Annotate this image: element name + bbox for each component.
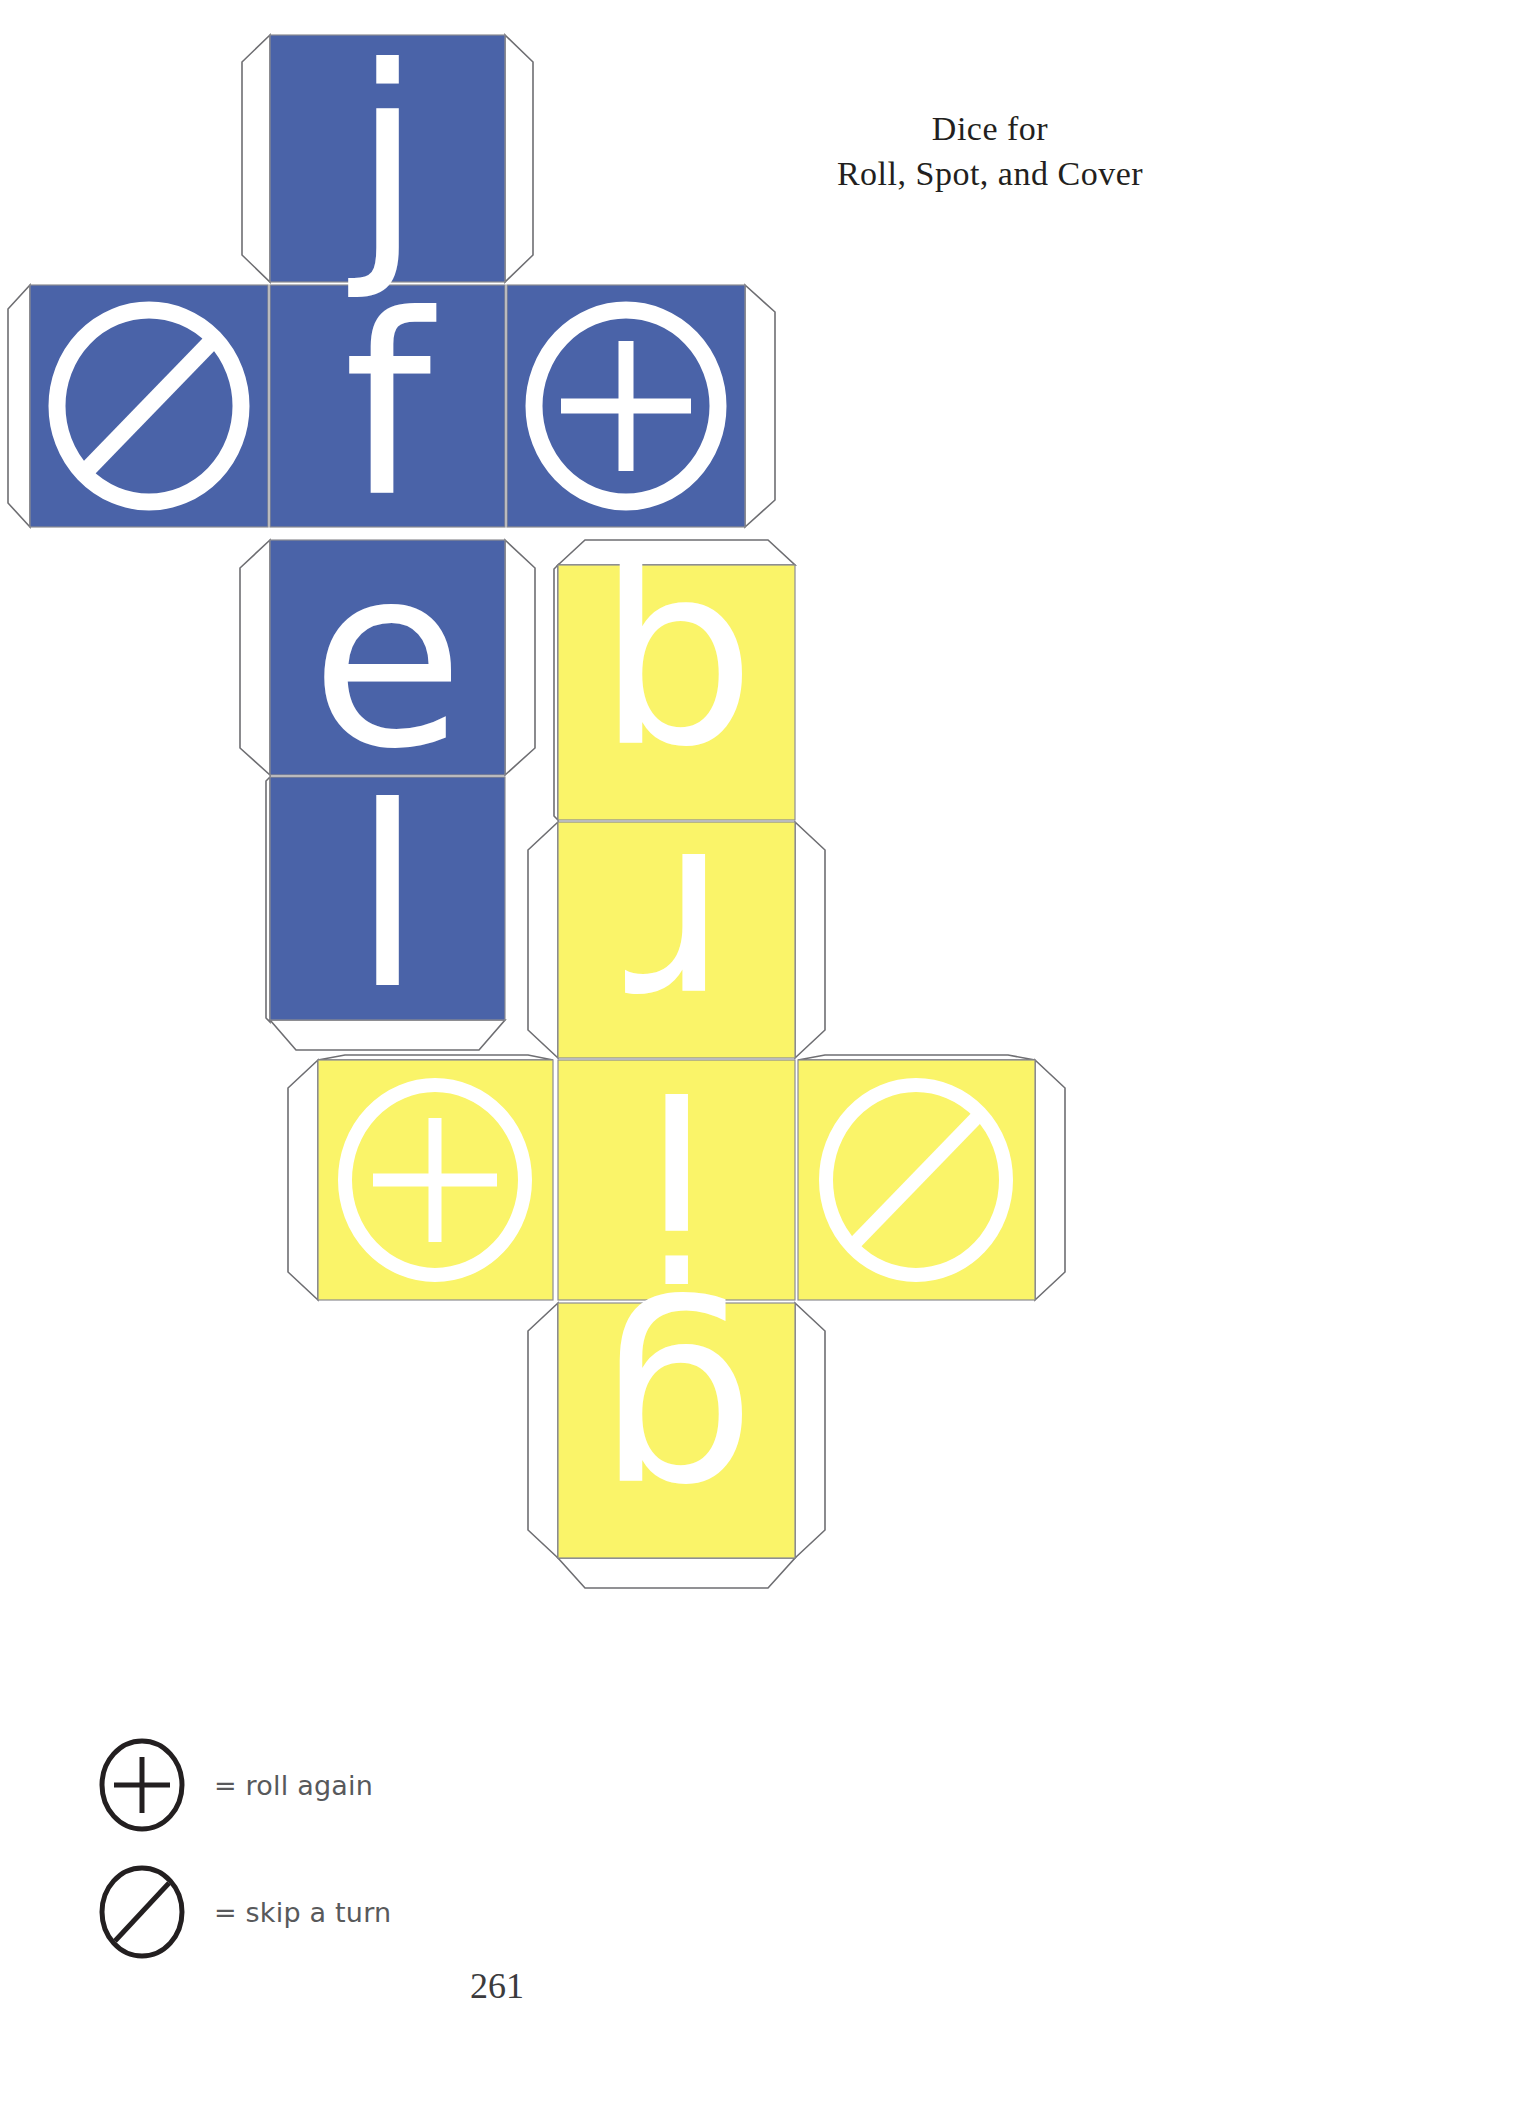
die-glyph-letter: e [311,535,465,780]
yellow-tab-g-left [528,1303,558,1558]
blue-tab-e-right [505,540,535,775]
blue-face-plus-content [507,285,745,527]
yellow-tab-plus-left [288,1060,318,1300]
legend-item-roll-again: = roll again [96,1735,373,1835]
yellow-face-plus-content [318,1060,553,1300]
yellow-face-q-content: q [558,565,795,820]
blue-face-f-content: f [270,285,505,527]
roll-again-icon [96,1735,188,1835]
blue-tab-skip-left [8,285,30,527]
die-glyph-letter: f [343,284,431,529]
blue-face-j-content: j [270,35,505,282]
die-glyph-letter: j [353,36,422,281]
yellow-tab-r-left [528,822,558,1058]
yellow-face-g-content: g [558,1303,795,1558]
blue-tab-e-left [240,540,270,775]
skip-a-turn-icon [57,310,241,502]
die-glyph-letter: i [642,1058,711,1303]
yellow-face-r-content: r [558,822,795,1058]
blue-tab-j-right [505,35,533,282]
blue-face-l-content: l [270,777,505,1020]
yellow-tab-r-right [795,822,825,1058]
blue-tab-j-left [242,35,270,282]
blue-face-skip-content [30,285,268,527]
roll-again-icon [534,310,718,502]
yellow-tab-skip-right [1035,1060,1065,1300]
skip-a-turn-icon [826,1085,1006,1275]
legend-label-skip-a-turn: = skip a turn [214,1897,391,1928]
die-glyph-letter: g [597,1308,756,1553]
skip-a-turn-icon [96,1862,188,1962]
yellow-tab-g-right [795,1303,825,1558]
blue-tab-plus-right [745,285,775,527]
yellow-face-i-content: i [558,1060,795,1300]
die-glyph-letter: r [625,818,728,1063]
die-glyph-letter: q [597,570,756,815]
die-glyph-letter: l [353,776,422,1021]
yellow-face-skip-content [798,1060,1035,1300]
blue-face-e-content: e [270,540,505,775]
page-number: 261 [470,1965,524,2007]
page-canvas: Dice for Roll, Spot, and Cover [0,0,1519,2104]
legend-label-roll-again: = roll again [214,1770,373,1801]
roll-again-icon [345,1085,525,1275]
legend-item-skip-a-turn: = skip a turn [96,1862,391,1962]
